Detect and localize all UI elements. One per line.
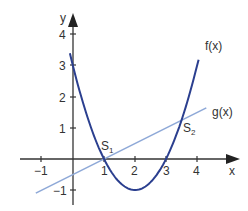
tick-label-y: 1: [59, 122, 66, 136]
function-graph: −1 1 2 3 4 x 4 3 2 1 −1 y f(x) g(x) S1 S…: [0, 0, 248, 211]
y-axis-label: y: [60, 11, 66, 25]
tick-label-x: −1: [34, 164, 48, 178]
s2-label: S2: [183, 121, 196, 137]
tick-label-y: −1: [53, 184, 67, 198]
x-axis-arrow-icon: [226, 154, 240, 164]
tick-label-y: 2: [59, 91, 66, 105]
g-label: g(x): [212, 105, 233, 119]
tick-label-x: 2: [131, 164, 138, 178]
ticks: [41, 34, 197, 190]
tick-label-x: 3: [163, 164, 170, 178]
x-axis-label: x: [229, 164, 235, 178]
tick-label-x: 1: [101, 164, 108, 178]
s1-label: S1: [101, 139, 114, 155]
axes: [20, 22, 232, 205]
tick-label-y: 4: [59, 28, 66, 42]
tick-label-x: 4: [193, 164, 200, 178]
f-label: f(x): [205, 39, 222, 53]
y-axis-arrow-icon: [68, 13, 78, 27]
tick-label-y: 3: [59, 59, 66, 73]
